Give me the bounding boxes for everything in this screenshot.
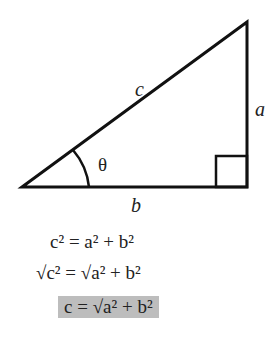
label-adjacent: b — [131, 194, 141, 216]
right-triangle — [22, 22, 247, 187]
equation-3-highlighted: c = √a² + b² — [58, 296, 159, 318]
angle-arc — [73, 150, 89, 187]
label-opposite: a — [255, 98, 265, 120]
triangle-diagram: c a b θ — [0, 0, 279, 346]
equation-2: √c² = √a² + b² — [36, 262, 141, 284]
right-angle-marker — [216, 156, 247, 187]
equation-1: c² = a² + b² — [50, 231, 134, 253]
label-angle: θ — [98, 154, 107, 175]
label-hypotenuse: c — [135, 78, 144, 100]
